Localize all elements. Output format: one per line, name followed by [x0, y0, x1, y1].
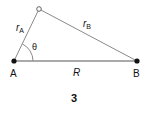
- label-r: R: [73, 67, 80, 78]
- label-point-a: A: [10, 68, 17, 79]
- figure-number: 3: [71, 92, 77, 104]
- point-b: [134, 58, 139, 63]
- point-a: [11, 58, 16, 63]
- label-r-a: rA: [16, 22, 24, 34]
- label-r-b: rB: [83, 18, 91, 30]
- edge-r-b: [39, 9, 137, 61]
- edge-r-a: [14, 9, 39, 61]
- label-point-b: B: [133, 68, 140, 79]
- label-theta: θ: [32, 42, 37, 52]
- point-apex: [37, 7, 42, 12]
- triangle-diagram: rA rB θ A B R 3: [0, 0, 150, 114]
